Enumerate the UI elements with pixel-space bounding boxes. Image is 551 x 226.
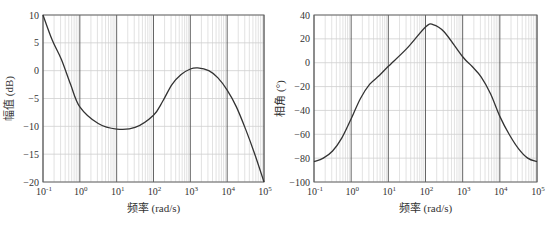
y-tick-label: 40 [300,10,310,21]
phase-plot: 40200−20−40−60−80−10010-1100101102103104… [274,10,545,216]
x-tick-label: 103 [185,185,199,197]
x-tick-label: 102 [148,185,162,197]
x-tick-label: 100 [74,185,88,197]
y-tick-label: −80 [294,153,310,164]
x-tick-label: 101 [111,185,125,197]
x-tick-label: 101 [383,185,397,197]
y-tick-label: 0 [305,57,310,68]
x-tick-label: 104 [494,185,508,197]
y-tick-label: 0 [34,65,39,76]
y-tick-label: −20 [294,81,310,92]
x-axis-label: 频率 (rad/s) [399,201,453,215]
y-tick-label: −40 [294,105,310,116]
y-axis-label: 相角 (°) [274,80,287,117]
y-tick-label: −15 [23,149,39,160]
x-tick-label: 10-1 [307,185,323,197]
y-axis-label: 幅值 (dB) [3,76,16,121]
y-tick-label: −60 [294,129,310,140]
x-tick-label: 10-1 [36,185,52,197]
x-tick-label: 104 [221,185,235,197]
bode-plot-figure: 1050−5−10−15−2010-1100101102103104105频率 … [0,0,551,226]
y-tick-label: 10 [29,10,39,21]
x-tick-label: 105 [531,185,545,197]
y-tick-label: 5 [34,37,39,48]
x-tick-label: 102 [420,185,434,197]
y-tick-label: 20 [300,33,310,44]
magnitude-plot: 1050−5−10−15−2010-1100101102103104105频率 … [3,10,272,216]
x-tick-label: 105 [258,185,272,197]
x-tick-label: 103 [457,185,471,197]
y-tick-label: −10 [23,121,39,132]
x-axis-label: 频率 (rad/s) [127,201,181,215]
x-tick-label: 100 [345,185,359,197]
y-tick-label: −5 [28,93,39,104]
